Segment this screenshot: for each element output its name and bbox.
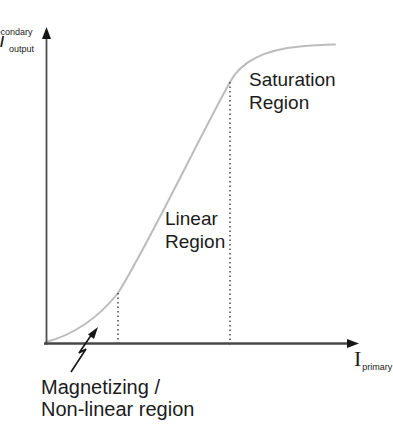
y-axis-arrowhead-icon — [42, 27, 51, 39]
y-axis-label-line2: output — [9, 44, 34, 54]
y-axis-label-line1: secondary — [0, 27, 33, 37]
magnetizing-region-label: Magnetizing / Non-linear region — [41, 376, 194, 420]
x-axis-label-subscript: primary — [362, 362, 392, 372]
saturation-curve-figure: secondary / output Iprimary Saturation R… — [0, 0, 393, 437]
x-axis-label: Iprimary — [354, 346, 391, 372]
x-axis-label-symbol: I — [354, 346, 361, 371]
saturation-region-label: Saturation Region — [249, 68, 336, 114]
magnetizing-pointer-arrow — [71, 334, 92, 372]
linear-region-label: Linear Region — [165, 207, 225, 253]
y-axis-label-slash: / — [0, 33, 4, 50]
